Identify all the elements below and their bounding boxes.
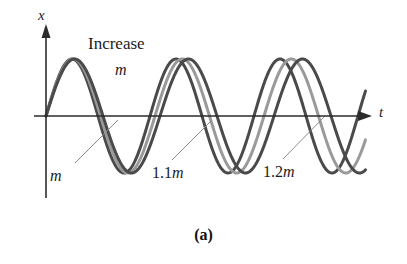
increase-annotation: Increase: [88, 35, 145, 52]
curve-label-1.1m-number: 1.1: [152, 164, 172, 181]
y-axis-arrowhead: [42, 24, 51, 38]
figure-caption: (a): [0, 226, 407, 244]
increase-mass-variable: m: [115, 62, 127, 78]
x-axis-arrowhead: [358, 111, 372, 121]
curve-label-1.1m: 1.1m: [152, 165, 184, 181]
curve-label-1.2m-number: 1.2: [263, 163, 283, 180]
curve-label-1.2m-variable: m: [283, 163, 295, 180]
curve-label-1.2m: 1.2m: [263, 164, 295, 180]
curve-label-1.1m-variable: m: [172, 164, 184, 181]
curve-label-m: m: [50, 168, 62, 184]
x-axis-label: t: [379, 105, 383, 120]
oscillation-figure: x t Increase m m 1.1m 1.2m (a): [0, 0, 407, 264]
axes-group: [34, 24, 372, 198]
leader-1.1m: [172, 120, 212, 160]
y-axis-label: x: [38, 8, 45, 23]
wave-plot-svg: [0, 0, 407, 264]
